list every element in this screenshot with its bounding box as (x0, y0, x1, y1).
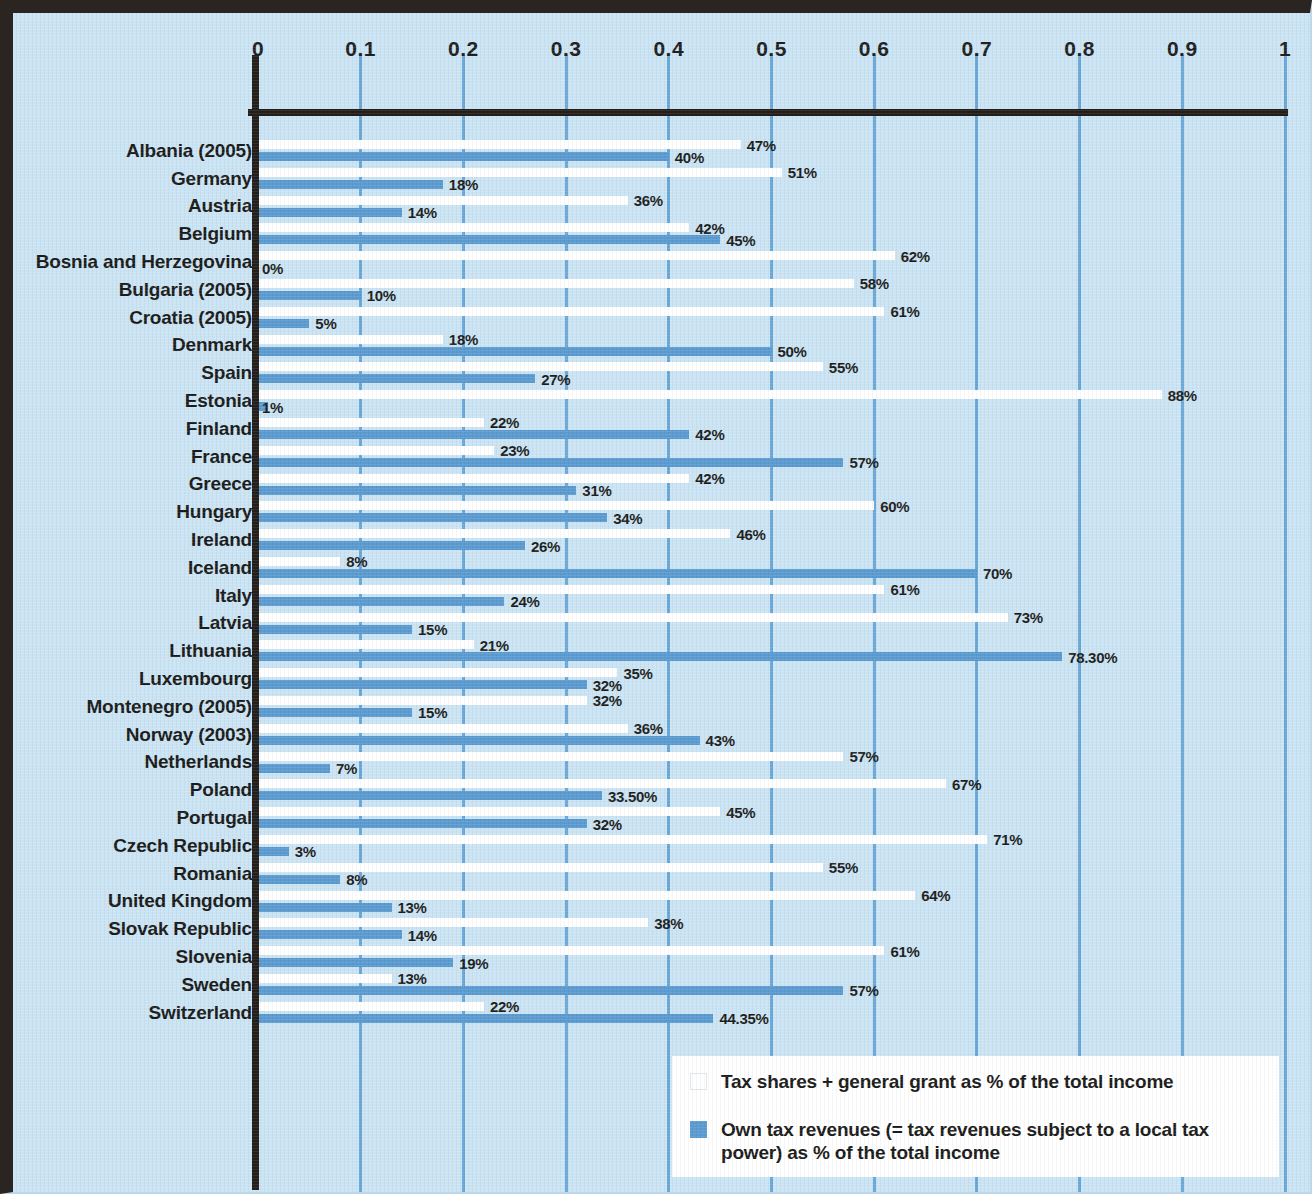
bar-value-label: 47% (747, 136, 776, 153)
chart-row: Denmark18%50% (258, 332, 1285, 360)
bar-value-label: 71% (993, 831, 1022, 848)
category-label: Italy (215, 585, 252, 607)
chart-row: Hungary60%34% (258, 498, 1285, 526)
bar-value-label: 43% (706, 732, 735, 749)
bar-value-label: 35% (623, 664, 652, 681)
y-axis-line (252, 55, 259, 1190)
bar-value-label: 32% (593, 676, 622, 693)
bar-value-label: 61% (890, 581, 919, 598)
bar-value-label: 32% (593, 815, 622, 832)
chart-row: Belgium42%45% (258, 220, 1285, 248)
x-tick-label: 0.1 (345, 37, 376, 61)
bar-white: 61% (258, 585, 884, 594)
bar-white: 55% (258, 863, 823, 872)
category-label: Sweden (181, 974, 252, 996)
category-label: Lithuania (169, 640, 252, 662)
bar-blue: 14% (258, 208, 402, 217)
bar-value-label: 44.35% (719, 1010, 768, 1027)
bar-value-label: 36% (634, 192, 663, 209)
bar-white: 38% (258, 918, 648, 927)
bar-value-label: 15% (418, 621, 447, 638)
bar-value-label: 57% (849, 748, 878, 765)
bar-white: 22% (258, 418, 484, 427)
bar-value-label: 14% (408, 926, 437, 943)
category-label: Montenegro (2005) (86, 696, 252, 718)
x-tick-label: 0.3 (551, 37, 582, 61)
category-label: Finland (186, 418, 252, 440)
bar-white: 61% (258, 307, 884, 316)
bar-value-label: 15% (418, 704, 447, 721)
bar-value-label: 0% (262, 259, 283, 276)
bar-blue: 40% (258, 152, 669, 161)
category-label: United Kingdom (108, 890, 252, 912)
category-label: Hungary (176, 501, 252, 523)
chart-row: Finland22%42% (258, 415, 1285, 443)
bar-blue: 32% (258, 680, 587, 689)
category-label: Austria (188, 195, 252, 217)
bar-blue: 34% (258, 513, 607, 522)
category-label: Czech Republic (113, 835, 252, 857)
bar-blue: 57% (258, 986, 843, 995)
bar-blue: 24% (258, 597, 504, 606)
category-label: Bosnia and Herzegovina (36, 251, 252, 273)
bar-value-label: 51% (788, 164, 817, 181)
category-label: Iceland (188, 557, 252, 579)
x-tick-label: 0.8 (1064, 37, 1095, 61)
bar-white: 13% (258, 974, 392, 983)
bar-value-label: 18% (449, 176, 478, 193)
bar-value-label: 61% (890, 942, 919, 959)
bar-value-label: 58% (860, 275, 889, 292)
bar-value-label: 60% (880, 497, 909, 514)
bar-blue: 43% (258, 736, 700, 745)
bar-blue: 5% (258, 319, 309, 328)
bar-blue: 57% (258, 458, 843, 467)
bar-white: 35% (258, 668, 617, 677)
legend-item-tax-shares: Tax shares + general grant as % of the t… (690, 1070, 1173, 1093)
bar-white: 45% (258, 807, 720, 816)
chart-row: Slovenia61%19% (258, 943, 1285, 971)
chart-row: United Kingdom64%13% (258, 888, 1285, 916)
chart-row: Czech Republic71%3% (258, 832, 1285, 860)
bar-value-label: 21% (480, 636, 509, 653)
bar-value-label: 55% (829, 859, 858, 876)
category-label: France (191, 446, 252, 468)
chart-row: Portugal45%32% (258, 804, 1285, 832)
bar-value-label: 22% (490, 414, 519, 431)
bar-white: 61% (258, 946, 884, 955)
bar-value-label: 70% (983, 565, 1012, 582)
legend-label-tax-shares: Tax shares + general grant as % of the t… (721, 1070, 1173, 1093)
chart-row: Luxembourg35%32% (258, 665, 1285, 693)
bar-value-label: 50% (778, 343, 807, 360)
bar-value-label: 45% (726, 803, 755, 820)
bar-value-label: 42% (695, 426, 724, 443)
category-label: Spain (201, 362, 252, 384)
chart-row: Netherlands57%7% (258, 749, 1285, 777)
category-label: Latvia (198, 612, 252, 634)
plot-area: 00.10.20.30.40.50.60.70.80.91 Albania (2… (258, 113, 1285, 1194)
bar-value-label: 33.50% (608, 787, 657, 804)
x-axis-line (248, 109, 1288, 116)
chart-row: Ireland46%26% (258, 526, 1285, 554)
chart-row: Germany51%18% (258, 165, 1285, 193)
bar-white: 23% (258, 446, 494, 455)
bar-value-label: 27% (541, 370, 570, 387)
bar-blue: 15% (258, 708, 412, 717)
bar-blue: 18% (258, 180, 443, 189)
bar-white: 8% (258, 557, 340, 566)
chart-row: Poland67%33.50% (258, 776, 1285, 804)
x-tick-label: 0.9 (1167, 37, 1198, 61)
bar-value-label: 14% (408, 204, 437, 221)
legend-swatch-white (690, 1073, 707, 1090)
bar-blue: 8% (258, 875, 340, 884)
category-label: Netherlands (144, 751, 252, 773)
bar-value-label: 10% (367, 287, 396, 304)
bar-value-label: 24% (510, 593, 539, 610)
bar-white: 42% (258, 223, 689, 232)
bar-value-label: 19% (459, 954, 488, 971)
bar-value-label: 62% (901, 247, 930, 264)
bar-white: 60% (258, 501, 874, 510)
chart-row: Montenegro (2005)32%15% (258, 693, 1285, 721)
x-tick-label: 0.6 (859, 37, 890, 61)
category-label: Slovak Republic (108, 918, 252, 940)
bar-value-label: 57% (849, 454, 878, 471)
